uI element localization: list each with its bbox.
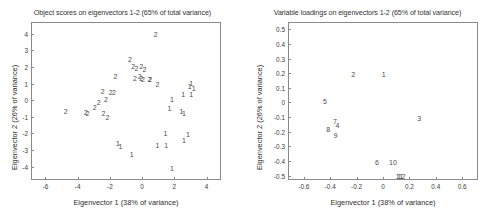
data-point-label: 8 <box>326 125 330 132</box>
x-tick-label: 0.6 <box>458 183 467 190</box>
data-point-label: 1 <box>186 131 190 138</box>
y-tick-label: 0.4 <box>266 40 285 47</box>
y-tick-label: 0 <box>9 97 28 104</box>
y-tick <box>288 161 291 162</box>
data-point-label: 2 <box>141 75 145 82</box>
data-point-label: 10 <box>389 158 397 165</box>
x-tick <box>45 177 46 180</box>
data-point-label: 2 <box>104 95 108 102</box>
data-point-label: 1 <box>118 142 122 149</box>
data-point-label: 1 <box>155 142 159 149</box>
y-tick <box>31 34 34 35</box>
x-tick-label: 0.2 <box>405 183 414 190</box>
y-tick <box>288 117 291 118</box>
x-tick <box>383 177 384 180</box>
x-tick <box>357 177 358 180</box>
x-tick <box>304 177 305 180</box>
x-tick-label: -2 <box>107 183 113 190</box>
data-point-label: 3 <box>417 114 421 121</box>
y-tick <box>31 150 34 151</box>
x-axis-label-object-scores: Eigenvector 1 (38% of variance) <box>73 198 178 207</box>
y-tick-label: 0.3 <box>266 55 285 62</box>
y-tick-label: -0.3 <box>266 143 285 150</box>
y-tick <box>288 59 291 60</box>
x-tick <box>78 177 79 180</box>
y-tick-label: 0.5 <box>266 26 285 33</box>
y-tick <box>31 50 34 51</box>
data-point-label: 1 <box>182 109 186 116</box>
y-tick <box>288 44 291 45</box>
y-tick-label: 1 <box>9 80 28 87</box>
data-point-label: 1 <box>182 137 186 144</box>
data-point-label: 2 <box>351 70 355 77</box>
data-point-label: 12 <box>398 172 406 179</box>
y-axis-label-variable-loadings: Eigenvector 2 (26% of variance) <box>255 65 264 170</box>
data-point-label: 1 <box>170 95 174 102</box>
panel-object-scores: Object scores on eigenvectors 1-2 (65% o… <box>0 0 245 218</box>
y-tick <box>31 167 34 168</box>
x-tick <box>174 177 175 180</box>
data-point-label: 2 <box>143 66 147 73</box>
data-point-label: 1 <box>163 130 167 137</box>
y-tick <box>31 100 34 101</box>
x-tick <box>409 177 410 180</box>
x-tick-label: 0.4 <box>431 183 440 190</box>
y-tick-label: -0.4 <box>266 157 285 164</box>
chart-title-object-scores: Object scores on eigenvectors 1-2 (65% o… <box>0 8 245 17</box>
y-tick-label: -0.5 <box>266 172 285 179</box>
y-tick-label: 4 <box>9 30 28 37</box>
y-tick <box>31 117 34 118</box>
data-point-label: 2 <box>114 73 118 80</box>
y-tick <box>288 88 291 89</box>
y-tick-label: -0.2 <box>266 128 285 135</box>
data-point-label: 2 <box>133 74 137 81</box>
data-point-label: 2 <box>106 113 110 120</box>
x-tick-label: -0.4 <box>325 183 336 190</box>
y-tick-label: -3 <box>9 147 28 154</box>
x-tick <box>462 177 463 180</box>
data-point-label: 1 <box>168 104 172 111</box>
plot-area-variable-loadings <box>288 22 478 180</box>
x-tick-label: -0.2 <box>351 183 362 190</box>
figure-canvas: Object scores on eigenvectors 1-2 (65% o… <box>0 0 490 218</box>
y-tick <box>31 67 34 68</box>
y-tick <box>288 29 291 30</box>
data-point-label: 1 <box>164 142 168 149</box>
y-tick-label: 0.1 <box>266 84 285 91</box>
data-point-label: 1 <box>170 165 174 172</box>
y-tick <box>288 132 291 133</box>
data-point-label: 2 <box>97 98 101 105</box>
chart-title-variable-loadings: Variable loadings on eigenvectors 1-2 (6… <box>245 8 490 17</box>
data-point-label: 1 <box>189 91 193 98</box>
y-tick-label: 2 <box>9 63 28 70</box>
data-point-label: 2 <box>64 107 68 114</box>
y-tick-label: -0.1 <box>266 114 285 121</box>
x-tick-label: -6 <box>43 183 49 190</box>
x-axis-label-variable-loadings: Eigenvector 1 (38% of variance) <box>330 198 435 207</box>
x-tick-label: -0.6 <box>298 183 309 190</box>
data-point-label: 2 <box>155 80 159 87</box>
data-point-label: 6 <box>375 158 379 165</box>
y-tick-label: -1 <box>9 113 28 120</box>
data-point-label: 2 <box>93 103 97 110</box>
data-point-label: 9 <box>334 132 338 139</box>
data-point-label: 7 <box>333 117 337 124</box>
x-tick <box>436 177 437 180</box>
y-tick <box>288 73 291 74</box>
data-point-label: 2 <box>148 76 152 83</box>
data-point-label: 1 <box>382 70 386 77</box>
y-tick-label: 0.2 <box>266 70 285 77</box>
data-point-label: 2 <box>154 30 158 37</box>
plot-area-object-scores <box>31 22 221 180</box>
y-tick <box>288 102 291 103</box>
y-tick <box>288 176 291 177</box>
x-tick-label: 2 <box>173 183 177 190</box>
y-tick <box>288 146 291 147</box>
panel-variable-loadings: Variable loadings on eigenvectors 1-2 (6… <box>245 0 490 218</box>
data-point-label: 2 <box>135 64 139 71</box>
x-tick <box>110 177 111 180</box>
x-tick-label: 0 <box>381 183 385 190</box>
x-tick <box>207 177 208 180</box>
data-point-label: 1 <box>181 91 185 98</box>
y-tick <box>31 84 34 85</box>
